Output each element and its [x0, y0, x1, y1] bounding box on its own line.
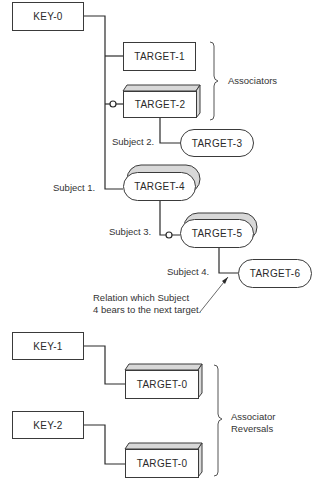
- annotation-line-2: 4 bears to the next target.: [93, 304, 201, 316]
- target-0-label-2: TARGET-0: [137, 458, 188, 469]
- relation-marker-icon: [110, 101, 116, 107]
- subject-2-label: Subject 2.: [112, 136, 154, 147]
- target-0-node-2: TARGET-0: [125, 449, 199, 478]
- target-1-node: TARGET-1: [123, 42, 196, 71]
- relation-annotation: Relation which Subject 4 bears to the ne…: [93, 292, 201, 316]
- associator-reversals-label: Associator Reversals: [231, 411, 275, 435]
- target-3-node: TARGET-3: [180, 129, 254, 157]
- target-2-node: TARGET-2: [123, 91, 197, 118]
- key-2-label: KEY-2: [33, 420, 62, 431]
- key-2-node: KEY-2: [12, 411, 84, 439]
- target-4-label: TARGET-4: [134, 181, 185, 192]
- key-0-label: KEY-0: [33, 11, 62, 22]
- target-6-label: TARGET-6: [250, 268, 301, 279]
- relation-marker-icon: [166, 232, 172, 238]
- target-1-label: TARGET-1: [134, 51, 185, 62]
- target-0-label: TARGET-0: [137, 379, 188, 390]
- target-2-label: TARGET-2: [135, 99, 186, 110]
- annotation-line-1: Relation which Subject: [93, 292, 201, 304]
- target-0-node: TARGET-0: [125, 370, 199, 399]
- target-6-node: TARGET-6: [238, 259, 312, 288]
- reversals-line-2: Reversals: [231, 423, 275, 435]
- key-0-node: KEY-0: [12, 2, 84, 31]
- reversals-line-1: Associator: [231, 411, 275, 423]
- key-1-node: KEY-1: [12, 332, 84, 360]
- subject-3-label: Subject 3.: [109, 226, 151, 237]
- key-1-label: KEY-1: [33, 341, 62, 352]
- target-4-node: TARGET-4: [123, 172, 196, 201]
- subject-1-label: Subject 1.: [53, 182, 95, 193]
- subject-4-label: Subject 4.: [167, 266, 209, 277]
- target-5-node: TARGET-5: [180, 219, 254, 248]
- associators-label: Associators: [228, 75, 277, 86]
- target-5-label: TARGET-5: [192, 228, 243, 239]
- target-3-label: TARGET-3: [192, 138, 243, 149]
